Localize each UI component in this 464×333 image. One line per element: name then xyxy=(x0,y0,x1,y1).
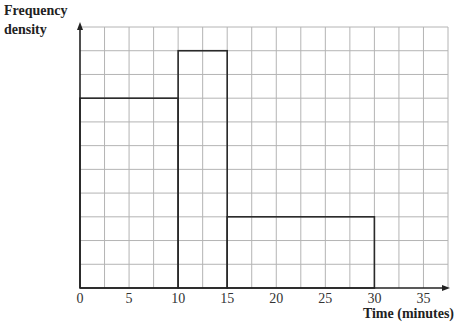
x-tick-label: 30 xyxy=(367,291,381,307)
y-axis-label-line1: Frequency xyxy=(4,1,68,20)
y-axis-arrow-icon xyxy=(77,22,83,30)
x-tick-label: 5 xyxy=(126,291,133,307)
x-axis-label: Time (minutes) xyxy=(363,306,454,322)
y-axis-label: Frequency density xyxy=(4,1,68,39)
x-tick-label: 0 xyxy=(77,291,84,307)
x-axis-arrow-icon xyxy=(442,285,450,291)
grid-lines xyxy=(80,27,448,288)
y-axis-label-line2: density xyxy=(4,20,68,39)
x-tick-label: 20 xyxy=(269,291,283,307)
x-tick-label: 35 xyxy=(416,291,430,307)
histogram-chart xyxy=(0,0,464,333)
axes xyxy=(77,22,450,291)
x-tick-label: 25 xyxy=(318,291,332,307)
x-tick-label: 15 xyxy=(220,291,234,307)
x-tick-label: 10 xyxy=(171,291,185,307)
